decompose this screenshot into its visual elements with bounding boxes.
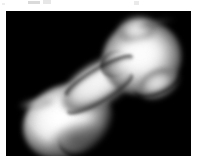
page-root xyxy=(0,0,198,161)
crop-artifact-mark xyxy=(134,1,139,5)
crop-artifact-mark xyxy=(28,1,40,4)
crop-artifact-mark xyxy=(2,3,5,5)
asteroid-body xyxy=(6,11,191,156)
asteroid-image-plate xyxy=(6,11,191,156)
crop-artifact-mark xyxy=(43,0,51,4)
